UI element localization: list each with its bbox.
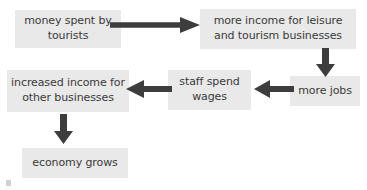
node-economy-grows: economy grows: [22, 148, 128, 178]
arrow-down-icon-increased-income-to-economy-grows: [54, 114, 73, 144]
arrow-left-icon-staff-wages-to-increased-income: [126, 80, 172, 98]
node-staff-spend-wages: staff spend wages: [168, 70, 251, 110]
node-increased-income-for-other-businesses: increased income for other businesses: [7, 70, 129, 112]
arrow-left-icon-more-jobs-to-staff-wages: [254, 80, 294, 98]
flowchart-diagram: money spent by tourists more income for …: [0, 0, 367, 190]
corner-artifact: [6, 180, 11, 186]
node-money-spent-by-tourists: money spent by tourists: [15, 10, 121, 48]
node-more-income-for-leisure-and-tourism-businesses: more income for leisure and tourism busi…: [200, 9, 356, 49]
arrow-down-icon-more-income-to-more-jobs: [316, 48, 335, 77]
arrow-right-icon-money-to-more-income: [110, 16, 200, 34]
node-more-jobs: more jobs: [290, 76, 360, 106]
